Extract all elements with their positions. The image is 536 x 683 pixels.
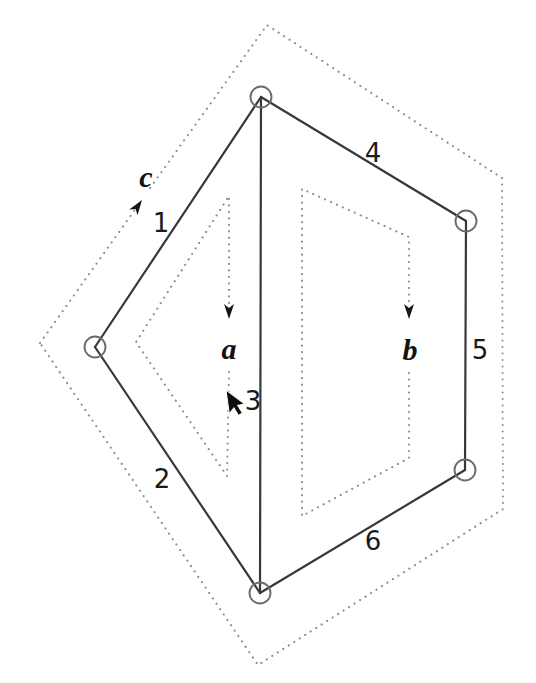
face-loop-b-path [302, 189, 409, 516]
edge-4 [261, 97, 466, 221]
loop-a-arrowhead-icon [224, 304, 234, 319]
graph-figure: 1 2 3 4 5 6 a b c [0, 0, 536, 683]
mouse-cursor-icon [226, 388, 246, 416]
loop-b-arrowhead-icon [404, 304, 414, 319]
figure-canvas: 1 2 3 4 5 6 a b c [0, 0, 536, 683]
edge-1 [95, 97, 261, 347]
edge-5-label: 5 [472, 335, 489, 365]
loop-b-label: b [403, 333, 418, 366]
edge-2-label: 2 [154, 464, 171, 494]
edge-3-label: 3 [245, 386, 262, 416]
loop-c-arrowhead-icon [129, 197, 146, 215]
edge-2 [95, 347, 260, 593]
edge-6-label: 6 [365, 526, 382, 556]
face-loop-a-path [136, 196, 229, 476]
face-loop-c-path [40, 25, 503, 665]
edge-1-label: 1 [153, 208, 170, 238]
edge-6 [260, 470, 465, 593]
edge-3 [260, 97, 261, 593]
loop-c-label: c [139, 160, 152, 193]
edge-5 [465, 221, 466, 470]
edge-4-label: 4 [365, 138, 382, 168]
loop-a-label: a [222, 332, 237, 365]
